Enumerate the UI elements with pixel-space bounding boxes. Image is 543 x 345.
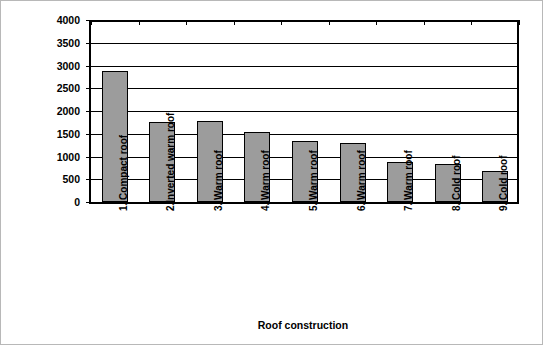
x-category-label: 4. Warm roof bbox=[260, 150, 271, 211]
y-tick-label: 500 bbox=[36, 174, 80, 185]
y-tick-label: 1000 bbox=[36, 151, 80, 162]
x-category-label: 6. Warm roof bbox=[356, 150, 367, 211]
x-tick-mark bbox=[519, 20, 520, 25]
plot-right-edge bbox=[517, 20, 519, 202]
y-tick-label: 2000 bbox=[36, 106, 80, 117]
y-tick-mark bbox=[86, 202, 91, 203]
x-tick-mark bbox=[234, 20, 235, 25]
x-tick-mark bbox=[471, 20, 472, 25]
x-tick-mark bbox=[91, 20, 92, 25]
x-category-label: 2.Inverted warm roof bbox=[165, 113, 176, 211]
y-tick-label: 1500 bbox=[36, 128, 80, 139]
x-category-label: 9. Cold roof bbox=[498, 155, 509, 211]
x-tick-mark bbox=[329, 20, 330, 25]
y-tick-label: 2500 bbox=[36, 83, 80, 94]
x-category-label: 5. Warm roof bbox=[308, 150, 319, 211]
x-category-label: 1. Compact roof bbox=[118, 135, 129, 211]
y-tick-label: 0 bbox=[36, 197, 80, 208]
x-tick-mark bbox=[424, 20, 425, 25]
x-category-label: 3. Warm roof bbox=[213, 150, 224, 211]
x-tick-mark bbox=[139, 20, 140, 25]
x-tick-mark bbox=[186, 20, 187, 25]
x-tick-mark bbox=[281, 20, 282, 25]
x-category-label: 8. Cold roof bbox=[451, 155, 462, 211]
y-tick-label: 3500 bbox=[36, 37, 80, 48]
x-tick-mark bbox=[376, 20, 377, 25]
x-axis-title: Roof construction bbox=[89, 319, 517, 331]
x-category-label: 7. Warm roof bbox=[403, 150, 414, 211]
chart-figure: Embodied energy (Mj/m2) 0500100015002000… bbox=[0, 0, 543, 345]
y-tick-label: 4000 bbox=[36, 15, 80, 26]
y-tick-label: 3000 bbox=[36, 60, 80, 71]
